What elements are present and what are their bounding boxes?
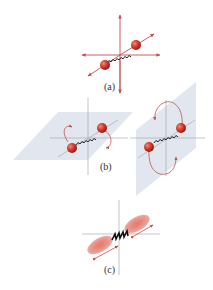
- label-b: (b): [100, 161, 112, 173]
- atom-left: [100, 60, 110, 70]
- atom-left-blur: [84, 232, 115, 258]
- panel-c: (c): [82, 200, 160, 276]
- atom-right: [176, 123, 186, 133]
- panel-b-vertical: [130, 82, 205, 196]
- diatomic-motion-diagram: (a) (b) (c): [0, 0, 213, 290]
- atom-left: [67, 143, 77, 153]
- panel-b-horizontal: (b): [13, 98, 133, 175]
- atom-left: [144, 142, 154, 152]
- spring: [107, 56, 131, 63]
- atom-right: [97, 123, 107, 133]
- label-c: (c): [104, 264, 115, 276]
- label-a: (a): [104, 81, 115, 93]
- atom-right: [131, 40, 141, 50]
- spring: [112, 231, 128, 240]
- panel-a: (a): [82, 15, 160, 93]
